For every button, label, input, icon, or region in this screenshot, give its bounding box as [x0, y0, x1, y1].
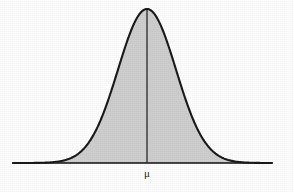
- figure-root: μ: [0, 0, 294, 192]
- bell-curve-chart: [0, 0, 294, 192]
- mean-axis-label: μ: [144, 168, 150, 179]
